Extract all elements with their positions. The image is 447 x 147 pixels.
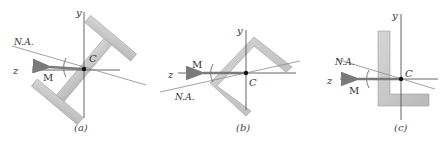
panel-b: y z N.A. M C (b) <box>160 25 300 133</box>
centroid-point <box>244 71 248 75</box>
y-axis-label: y <box>75 7 82 18</box>
panel-c: y z N.A. M C (c) <box>326 10 438 133</box>
moment-label: M <box>349 85 359 96</box>
centroid-label: C <box>89 53 97 64</box>
panel-a: y z N.A. M C (a) <box>12 7 146 133</box>
caption-c: (c) <box>394 122 408 133</box>
moment-label: M <box>43 72 53 83</box>
centroid-point <box>399 77 403 81</box>
diagram-canvas: y z N.A. M C (a) y z N.A. M <box>0 0 447 147</box>
y-axis-label: y <box>391 10 398 21</box>
y-axis-label: y <box>236 25 243 36</box>
l-section <box>378 31 429 106</box>
caption-b: (b) <box>236 122 250 133</box>
centroid-label: C <box>405 68 413 79</box>
neutral-axis-label: N.A. <box>334 57 355 67</box>
neutral-axis-label: N.A. <box>174 92 195 102</box>
neutral-axis-label: N.A. <box>13 37 34 47</box>
z-axis-label: z <box>12 65 19 76</box>
z-axis-label: z <box>167 69 174 80</box>
centroid-point <box>82 67 86 71</box>
moment-vector <box>50 67 82 69</box>
moment-label: M <box>192 59 202 70</box>
z-axis-label: z <box>326 75 333 86</box>
caption-a: (a) <box>74 122 88 133</box>
centroid-label: C <box>249 77 257 88</box>
